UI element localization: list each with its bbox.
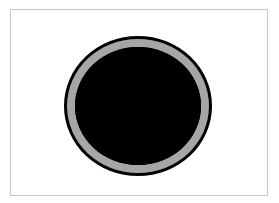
black-disc bbox=[64, 36, 212, 176]
black-core bbox=[75, 47, 201, 165]
